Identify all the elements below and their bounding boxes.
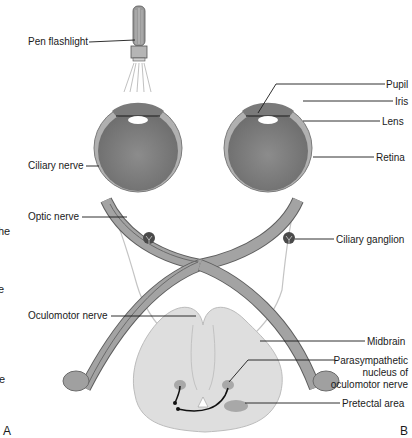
ciliary-ganglion-left [143, 232, 155, 244]
parasympathetic-line-2: nucleus of [331, 367, 408, 379]
ciliary-ganglion-right [283, 232, 295, 244]
pretectal-area-shape [224, 400, 248, 412]
parasympathetic-line-3: oculomotor nerve [331, 379, 408, 391]
label-lens: Lens [382, 116, 404, 128]
left-nerve-terminal [63, 371, 89, 391]
label-midbrain: Midbrain [367, 336, 405, 348]
label-pretectal-area: Pretectal area [342, 398, 404, 410]
parasympathetic-line-1: Parasympathetic [331, 355, 408, 367]
left-eye [94, 103, 182, 192]
pupillary-reflex-diagram: Pen flashlight Ciliary nerve Optic nerve… [0, 0, 412, 438]
right-eye [224, 103, 312, 192]
label-oculomotor-nerve: Oculomotor nerve [28, 310, 107, 322]
cut-off-text-2: e [0, 283, 4, 295]
label-ciliary-ganglion: Ciliary ganglion [336, 234, 404, 246]
label-optic-nerve: Optic nerve [28, 211, 79, 223]
label-iris: Iris [395, 96, 408, 108]
panel-label-a: A [3, 424, 11, 438]
label-ciliary-nerve: Ciliary nerve [28, 160, 84, 172]
label-pen-flashlight: Pen flashlight [28, 36, 88, 48]
midbrain-shape [133, 307, 282, 432]
cut-off-text-3: te [0, 373, 5, 385]
label-pupil: Pupil [386, 79, 408, 91]
pen-flashlight-icon [124, 6, 151, 92]
label-parasympathetic-nucleus: Parasympathetic nucleus of oculomotor ne… [331, 355, 408, 391]
panel-label-b: B [400, 424, 408, 438]
label-retina: Retina [376, 152, 405, 164]
cut-off-text-1: he [0, 225, 10, 237]
